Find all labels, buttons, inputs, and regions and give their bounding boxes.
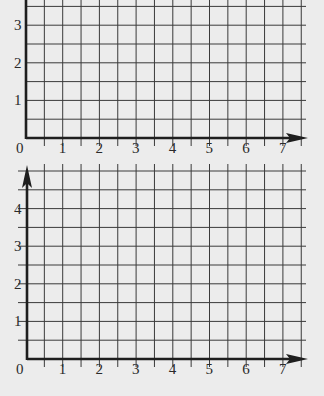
x-tick-label: 3 xyxy=(132,140,140,156)
x-tick-label: 5 xyxy=(206,361,214,377)
x-tick-label: 7 xyxy=(279,140,287,156)
y-tick-label: 1 xyxy=(14,313,22,329)
bottom-x-tick-labels: 1234567 xyxy=(59,361,287,377)
top-origin-label: 0 xyxy=(16,140,24,156)
y-tick-label: 3 xyxy=(14,238,22,254)
bottom-grid-lines xyxy=(18,164,306,367)
x-tick-label: 1 xyxy=(59,361,66,377)
figure: 0 1234567 123 0 1234567 1234 xyxy=(0,0,324,396)
x-tick-label: 2 xyxy=(95,361,103,377)
y-tick-label: 2 xyxy=(14,55,22,71)
x-tick-label: 4 xyxy=(169,361,177,377)
x-tick-label: 6 xyxy=(242,140,250,156)
x-tick-label: 1 xyxy=(59,140,66,156)
coordinate-grids: 0 1234567 123 0 1234567 1234 xyxy=(0,0,324,396)
y-tick-label: 3 xyxy=(14,17,22,33)
bottom-chart: 0 1234567 1234 xyxy=(14,164,308,377)
x-tick-label: 6 xyxy=(242,361,250,377)
top-grid-lines xyxy=(26,0,306,146)
bottom-origin-label: 0 xyxy=(16,361,24,377)
x-tick-label: 4 xyxy=(169,140,177,156)
x-tick-label: 3 xyxy=(132,361,140,377)
y-tick-label: 4 xyxy=(14,201,22,217)
x-tick-label: 5 xyxy=(206,140,214,156)
x-tick-label: 7 xyxy=(279,361,287,377)
top-chart: 0 1234567 123 xyxy=(14,0,308,156)
top-y-tick-labels: 123 xyxy=(14,17,22,108)
x-tick-label: 2 xyxy=(95,140,103,156)
y-tick-label: 1 xyxy=(14,92,22,108)
top-x-tick-labels: 1234567 xyxy=(59,140,287,156)
y-tick-label: 2 xyxy=(14,276,22,292)
